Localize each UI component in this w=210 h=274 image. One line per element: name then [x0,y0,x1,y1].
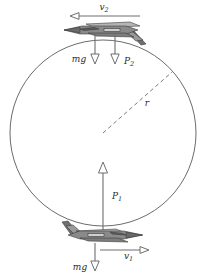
thrust-top-vector [111,34,119,64]
thrust-top-arrowhead [111,54,119,64]
jet-top-intake [104,29,120,32]
thrust-bottom-arrowhead [99,162,108,173]
velocity-top-arrowhead [70,13,79,20]
weight-bottom-label: mg [73,262,88,272]
velocity-bottom-arrowhead [140,247,149,254]
thrust-bottom-label: P1 [111,191,122,203]
velocity-top-label: v2 [99,2,108,14]
diagram-canvas: r v2 [0,0,210,274]
weight-top-arrowhead [91,54,99,64]
velocity-bottom-label: v1 [124,251,133,263]
physics-loop-diagram: r v2 [0,0,210,274]
jet-bottom-intake [88,234,104,237]
velocity-bottom-subscript: 1 [129,255,133,263]
weight-top-vector [91,34,99,64]
weight-bottom-vector [91,243,99,271]
radius-line [103,72,172,133]
jet-top [64,22,146,45]
thrust-bottom-subscript: 1 [118,195,122,203]
thrust-top-subscript: 2 [129,60,134,68]
weight-bottom-arrowhead [91,261,99,271]
weight-top-label: mg [72,54,87,64]
velocity-top-subscript: 2 [103,6,108,14]
radius-label: r [145,98,150,108]
thrust-top-label: P2 [123,56,134,68]
thrust-bottom-vector [99,162,108,236]
